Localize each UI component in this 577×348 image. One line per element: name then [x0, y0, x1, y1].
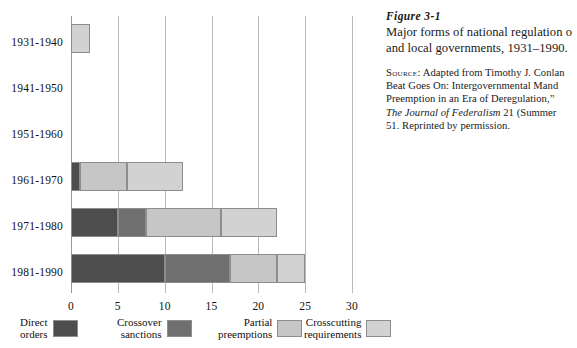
source-line-2: Beat Goes On: Intergovernmental Mand [386, 79, 577, 92]
legend-label-line-2: orders [20, 328, 48, 341]
legend-label-line-1: Partial [218, 316, 272, 329]
x-axis-tick-labels: 051015202530 [71, 16, 352, 316]
y-axis-category-labels: 1931-1940 1941-1950 1951-1960 1961-1970 … [0, 0, 63, 348]
figure-number: Figure 3-1 [386, 10, 577, 22]
legend-color-swatch [53, 320, 78, 337]
figure-number-text: Figure 3-1 [386, 10, 441, 22]
legend-label-line-1: Crossover [117, 316, 162, 329]
legend-color-swatch [167, 320, 192, 337]
x-tick-label-15: 15 [206, 300, 218, 312]
legend-label-line-1: Crosscutting [304, 316, 361, 329]
y-axis-label-1981-1990: 1981-1990 [11, 266, 63, 278]
source-journal-name: The Journal of Federalism [386, 107, 501, 118]
legend-label-line-1: Direct [20, 316, 48, 329]
legend-label-line-2: sanctions [117, 328, 162, 341]
figure-caption: Figure 3-1 Major forms of national regul… [386, 10, 577, 185]
figure-title: Major forms of national regulation o and… [386, 25, 577, 56]
legend-item[interactable]: Crossoversanctions [117, 312, 192, 344]
source-line-4-rest: 21 (Summer [501, 107, 557, 118]
figure-title-line-1: Major forms of national regulation o [386, 25, 577, 41]
legend-label-line-2: requirements [304, 328, 361, 341]
figure-title-line-2: and local governments, 1931–1990. [386, 41, 577, 57]
figure-panel: 1931-1940 1941-1950 1951-1960 1961-1970 … [0, 0, 372, 348]
x-tick-label-20: 20 [252, 300, 264, 312]
legend-label-line-2: preemptions [218, 328, 272, 341]
figure-source-note: Source: Adapted from Timothy J. Conlan B… [386, 66, 577, 132]
legend-color-swatch [277, 320, 302, 337]
y-axis-label-1971-1980: 1971-1980 [11, 220, 63, 232]
x-tick-label-10: 10 [159, 300, 171, 312]
source-line-1-text: Adapted from Timothy J. Conlan [421, 67, 565, 78]
x-tick-label-25: 25 [299, 300, 311, 312]
source-line-5: 51. Reprinted by permission. [386, 119, 577, 132]
source-line-1: Source: Adapted from Timothy J. Conlan [386, 66, 577, 79]
legend-item[interactable]: Partialpreemptions [218, 312, 302, 344]
y-axis-label-1951-1960: 1951-1960 [11, 128, 63, 140]
x-tick-label-30: 30 [346, 300, 358, 312]
legend-item[interactable]: Directorders [20, 312, 78, 344]
chart-legend: DirectordersCrossoversanctionsPartialpre… [14, 312, 366, 344]
gridline-30 [352, 16, 353, 293]
source-line-4: The Journal of Federalism 21 (Summer [386, 106, 577, 119]
source-line-3: Preemption in an Era of Deregulation,” [386, 92, 577, 105]
legend-item-label: Partialpreemptions [218, 316, 272, 341]
legend-color-swatch [366, 320, 391, 337]
y-axis-label-1941-1950: 1941-1950 [11, 82, 63, 94]
y-axis-label-1961-1970: 1961-1970 [11, 174, 63, 186]
x-tick-label-0: 0 [68, 300, 74, 312]
y-axis-label-1931-1940: 1931-1940 [11, 36, 63, 48]
legend-item-label: Crosscuttingrequirements [304, 316, 361, 341]
legend-item[interactable]: Crosscuttingrequirements [304, 312, 391, 344]
x-tick-label-5: 5 [115, 300, 121, 312]
source-label: Source: [386, 67, 421, 78]
legend-item-label: Directorders [20, 316, 48, 341]
legend-item-label: Crossoversanctions [117, 316, 162, 341]
